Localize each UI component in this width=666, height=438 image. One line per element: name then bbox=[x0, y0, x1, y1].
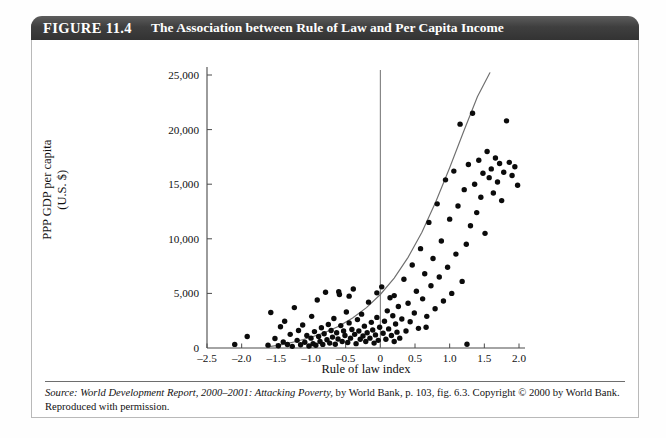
figure-container: FIGURE 11.4 The Association between Rule… bbox=[0, 0, 666, 438]
y-axis-title-line1: PPP GDP per capita bbox=[40, 100, 55, 280]
x-axis-title: Rule of law index bbox=[0, 362, 666, 377]
figure-panel bbox=[31, 24, 639, 418]
figure-number: FIGURE 11.4 bbox=[43, 20, 132, 37]
source-note: Source: World Development Report, 2000–2… bbox=[45, 386, 628, 415]
source-divider bbox=[45, 381, 625, 382]
source-prefix: Source: bbox=[45, 387, 78, 398]
y-axis-title-line2: (U.S. $) bbox=[55, 100, 70, 280]
y-axis-title: PPP GDP per capita (U.S. $) bbox=[40, 100, 70, 280]
figure-title: The Association between Rule of Law and … bbox=[151, 20, 504, 36]
source-title: World Development Report, 2000–2001: Att… bbox=[80, 387, 333, 398]
x-axis-title-text: Rule of law index bbox=[321, 362, 410, 376]
figure-title-bar: FIGURE 11.4 The Association between Rule… bbox=[31, 16, 639, 40]
